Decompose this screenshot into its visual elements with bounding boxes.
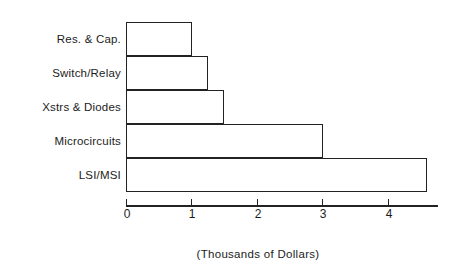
category-label-xstrs-diodes: Xstrs & Diodes	[3, 102, 121, 114]
x-tick-mark-3	[322, 199, 323, 206]
x-tick-label-0: 0	[115, 208, 139, 221]
category-axis-labels: Res. & Cap. Switch/Relay Xstrs & Diodes …	[0, 0, 121, 275]
x-axis-title-wrapper: (Thousands of Dollars)	[0, 248, 460, 260]
x-tick-label-3: 3	[311, 208, 335, 221]
bar-chart-figure: Res. & Cap. Switch/Relay Xstrs & Diodes …	[0, 0, 460, 275]
x-tick-label-1: 1	[180, 208, 204, 221]
category-label-lsi-msi: LSI/MSI	[3, 170, 121, 182]
x-tick-mark-0	[126, 199, 127, 206]
bar-switch-relay	[126, 56, 208, 90]
x-tick-label-2: 2	[246, 208, 270, 221]
bar-lsi-msi	[126, 158, 427, 192]
x-axis-title: (Thousands of Dollars)	[141, 248, 320, 260]
bar-microcircuits	[126, 124, 323, 158]
bar-res-cap	[126, 22, 192, 56]
plot-area	[126, 22, 436, 192]
x-tick-mark-2	[257, 199, 258, 206]
bar-xstrs-diodes	[126, 90, 224, 124]
x-tick-mark-1	[191, 199, 192, 206]
category-label-res-cap: Res. & Cap.	[3, 34, 121, 46]
x-tick-label-4: 4	[377, 208, 401, 221]
category-label-microcircuits: Microcircuits	[3, 136, 121, 148]
category-label-switch-relay: Switch/Relay	[3, 68, 121, 80]
x-tick-mark-4	[388, 199, 389, 206]
